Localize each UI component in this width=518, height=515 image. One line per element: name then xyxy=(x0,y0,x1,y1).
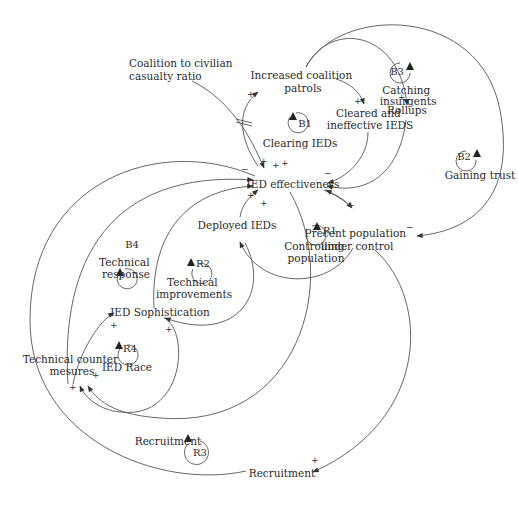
svg-text:R3: R3 xyxy=(193,447,207,458)
loops: B1 Clearing IEDs B2 Gaining trust B3 Cat… xyxy=(99,62,516,464)
node-recruitment: Recruitment xyxy=(249,467,316,479)
svg-text:+: + xyxy=(110,320,118,330)
link-population-to-recruitment xyxy=(313,250,411,472)
svg-text:+: + xyxy=(347,200,355,210)
loop-arrow-icon xyxy=(289,112,297,120)
loop-arrow-icon xyxy=(473,149,481,157)
svg-text:+: + xyxy=(247,89,255,99)
loop-arrow-icon xyxy=(187,258,195,266)
svg-text:−: − xyxy=(241,164,249,174)
node-increased-patrols: Increased coalition patrols xyxy=(250,69,355,94)
loop-arrow-icon xyxy=(406,62,414,70)
svg-text:Technical improvements: Technical improvements xyxy=(156,276,232,300)
svg-text:Gaining trust: Gaining trust xyxy=(445,169,516,181)
svg-text:+: + xyxy=(272,160,280,170)
svg-text:B2: B2 xyxy=(457,151,471,162)
svg-text:+: + xyxy=(398,92,406,102)
causal-loop-diagram: Coalition to civilian casualty ratio Inc… xyxy=(0,0,518,515)
node-casualty-ratio: Coalition to civilian casualty ratio xyxy=(129,57,236,82)
svg-text:Controlling population: Controlling population xyxy=(284,240,348,264)
link-effectiveness-to-patrols xyxy=(243,92,258,166)
link-outer-left-arc xyxy=(30,161,255,474)
svg-text:B3: B3 xyxy=(390,66,404,77)
svg-text:B1: B1 xyxy=(298,118,312,129)
svg-text:−: − xyxy=(406,222,414,232)
svg-text:+: + xyxy=(354,96,362,106)
svg-text:Recruitment: Recruitment xyxy=(135,435,202,447)
svg-text:+: + xyxy=(69,382,77,392)
svg-text:Technical response: Technical response xyxy=(99,256,153,280)
svg-text:+: + xyxy=(281,158,289,168)
svg-text:+: + xyxy=(247,190,255,200)
loop-b3: B3 Catching insurgents xyxy=(380,62,437,107)
svg-text:R4: R4 xyxy=(123,343,137,354)
svg-text:Clearing IEDs: Clearing IEDs xyxy=(263,137,338,149)
nodes: Coalition to civilian casualty ratio Inc… xyxy=(23,57,427,479)
svg-text:R1: R1 xyxy=(323,225,337,236)
svg-text:+: + xyxy=(165,324,173,334)
loop-b2: B2 Gaining trust xyxy=(445,149,516,181)
svg-text:Catching insurgents: Catching insurgents xyxy=(380,84,437,107)
svg-text:+: + xyxy=(260,198,268,208)
svg-text:+: + xyxy=(260,156,268,166)
svg-text:IED Race: IED Race xyxy=(102,361,152,373)
svg-text:−: − xyxy=(324,168,332,178)
loop-r2: R2 Technical improvements xyxy=(156,258,232,300)
svg-text:+: + xyxy=(92,370,100,380)
node-deployed-ieds: Deployed IEDs xyxy=(198,219,277,231)
svg-text:+: + xyxy=(311,455,319,465)
loop-b4: B4 Technical response xyxy=(99,239,153,289)
svg-text:R2: R2 xyxy=(196,258,210,269)
node-ied-effectiveness: IED effectiveness xyxy=(247,178,340,190)
node-ied-sophistication: IED Sophistication xyxy=(110,306,210,318)
loop-r3: R3 Recruitment xyxy=(135,434,209,464)
loop-arrow-icon xyxy=(115,341,123,349)
svg-text:B4: B4 xyxy=(125,239,139,250)
